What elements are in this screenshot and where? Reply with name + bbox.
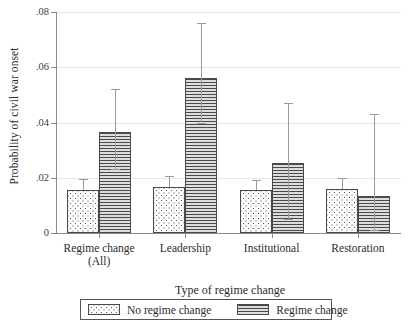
y-tick [51,12,56,13]
error-bar-cap [338,178,347,179]
chart-legend: No regime change Regime change [80,299,332,320]
civil-war-onset-bar-chart: Probability of civil war onset Type of r… [0,0,410,326]
bar-no-regime-change [326,189,358,233]
error-bar [83,179,84,190]
error-bar-cap [197,23,206,24]
y-axis-title: Probability of civil war onset [8,6,20,226]
error-bar-cap [197,123,206,124]
error-bar-cap [111,169,120,170]
plot-area: 0.02.04.06.08 [56,12,401,233]
lines-swatch-icon [237,304,269,315]
x-tick [185,233,186,238]
x-category-label: Institutional [244,242,300,254]
legend-item-no-regime-change: No regime change [88,304,211,316]
error-bar-cap [165,176,174,177]
y-tick [51,178,56,179]
error-bar [169,176,170,187]
error-bar-cap [79,179,88,180]
y-tick-label: 0 [44,228,49,238]
dots-swatch-icon [88,304,120,315]
y-tick-label: .02 [36,173,49,183]
y-tick-label: .04 [36,118,49,128]
gridline [57,12,401,13]
error-bar-cap [284,103,293,104]
error-bar-cap [111,89,120,90]
y-tick-label: .06 [36,62,49,72]
x-tick [272,233,273,238]
gridline [57,123,401,124]
legend-label-no-regime-change: No regime change [127,304,211,316]
legend-label-regime-change: Regime change [276,304,347,316]
x-axis-title: Type of regime change [55,283,405,298]
x-tick [358,233,359,238]
error-bar [115,89,116,169]
x-tick [99,233,100,238]
x-category-label-line2: (All) [39,255,159,268]
y-tick-label: .08 [36,7,49,17]
x-category-label: Restoration [331,242,384,254]
error-bar [201,23,202,122]
x-category-label: Leadership [160,242,211,254]
error-bar [374,114,375,229]
bar-no-regime-change [67,190,99,233]
x-axis-line [56,233,401,234]
error-bar-cap [370,114,379,115]
error-bar-cap [252,180,261,181]
x-category-label-group: Restoration [298,242,410,255]
bar-no-regime-change [240,190,272,233]
error-bar-cap [370,230,379,231]
error-bar [342,178,343,188]
bar-no-regime-change [153,187,185,233]
error-bar-cap [284,219,293,220]
legend-item-regime-change: Regime change [237,304,347,316]
y-tick [51,233,56,234]
y-tick [51,67,56,68]
error-bar [256,180,257,190]
y-tick [51,123,56,124]
x-category-label: Regime change [64,242,135,254]
gridline [57,67,401,68]
error-bar [288,103,289,218]
